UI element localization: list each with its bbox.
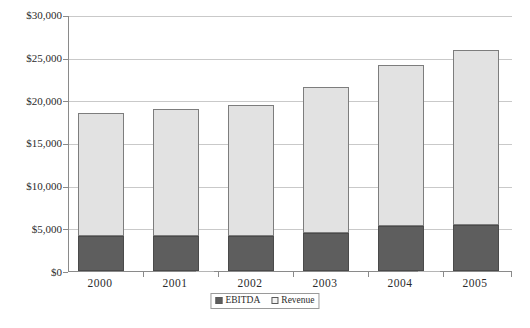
chart-legend: EBITDA Revenue (210, 293, 319, 309)
bar-segment-revenue-2005 (453, 50, 499, 225)
x-tick-label-2001: 2001 (140, 277, 210, 290)
y-tick-label-30000: $30,000 (0, 10, 62, 21)
bar-group-2003 (303, 87, 349, 271)
legend-entry-revenue: Revenue (271, 295, 314, 306)
y-tick-label-25000: $25,000 (0, 53, 62, 64)
bar-group-2004 (378, 65, 424, 271)
bar-group-2000 (78, 113, 124, 271)
gridline-5000 (69, 229, 512, 230)
y-tick-label-10000: $10,000 (0, 181, 62, 192)
bar-segment-revenue-2003 (303, 87, 349, 233)
bar-segment-revenue-2000 (78, 113, 124, 236)
gridline-25000 (69, 59, 512, 60)
x-tick-label-2004: 2004 (365, 277, 435, 290)
bar-segment-ebitda-2004 (378, 226, 424, 271)
bar-segment-revenue-2001 (153, 109, 199, 236)
bar-segment-ebitda-2000 (78, 236, 124, 271)
y-axis: $30,000 $25,000 $20,000 $15,000 $10,000 … (0, 0, 62, 328)
x-tick-label-2003: 2003 (290, 277, 360, 290)
scan-artifact (418, 271, 440, 272)
scan-artifact (196, 271, 214, 272)
bar-group-2002 (228, 105, 274, 271)
bar-segment-ebitda-2002 (228, 236, 274, 271)
legend-label-revenue: Revenue (281, 295, 314, 306)
legend-entry-ebitda: EBITDA (215, 295, 260, 306)
plot-area (68, 16, 512, 272)
y-tick-label-0: $0 (0, 267, 62, 278)
y-tick-label-20000: $20,000 (0, 96, 62, 107)
bar-segment-ebitda-2003 (303, 233, 349, 271)
y-tick-label-15000: $15,000 (0, 138, 62, 149)
x-tick-mark-5 (511, 272, 512, 277)
gridline-20000 (69, 101, 512, 102)
bar-group-2005 (453, 50, 499, 271)
stacked-bar-chart: $30,000 $25,000 $20,000 $15,000 $10,000 … (0, 0, 530, 328)
gridline-15000 (69, 144, 512, 145)
bar-segment-revenue-2004 (378, 65, 424, 226)
bar-segment-ebitda-2001 (153, 236, 199, 271)
y-tick-mark-0 (63, 272, 68, 273)
x-tick-label-2005: 2005 (440, 277, 510, 290)
gridline-30000 (69, 16, 512, 17)
x-tick-label-2000: 2000 (65, 277, 135, 290)
legend-label-ebitda: EBITDA (225, 295, 260, 306)
bar-segment-revenue-2002 (228, 105, 274, 236)
legend-swatch-ebitda-icon (215, 297, 222, 304)
x-tick-label-2002: 2002 (215, 277, 285, 290)
legend-swatch-revenue-icon (271, 297, 278, 304)
y-tick-label-5000: $5,000 (0, 224, 62, 235)
bar-segment-ebitda-2005 (453, 225, 499, 271)
gridline-10000 (69, 187, 512, 188)
bar-group-2001 (153, 109, 199, 271)
